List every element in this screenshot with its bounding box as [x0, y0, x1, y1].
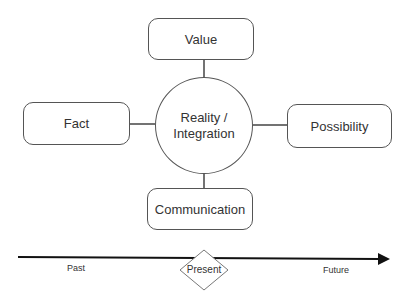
node-possibility: Possibility — [287, 104, 392, 148]
node-communication: Communication — [147, 188, 253, 230]
center-label-line2: Integration — [173, 126, 234, 142]
timeline-arrowhead-icon — [378, 253, 390, 265]
timeline-future-label: Future — [323, 265, 349, 275]
timeline-present-label: Present — [174, 264, 234, 275]
node-fact-label: Fact — [64, 116, 89, 131]
node-value: Value — [148, 18, 254, 60]
node-fact: Fact — [23, 102, 130, 145]
center-label-line1: Reality / — [173, 110, 234, 126]
node-communication-label: Communication — [155, 202, 245, 217]
node-possibility-label: Possibility — [311, 119, 369, 134]
node-value-label: Value — [185, 32, 217, 47]
center-node-reality-integration: Reality / Integration — [155, 77, 253, 174]
timeline-past-label: Past — [67, 263, 85, 273]
